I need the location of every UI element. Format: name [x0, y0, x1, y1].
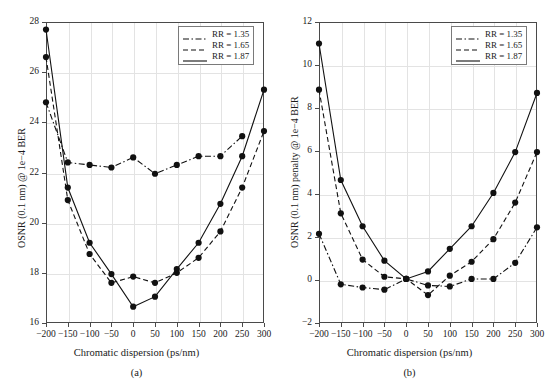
x-axis-label: Chromatic dispersion (ps/nm) — [0, 347, 273, 358]
y-tick-label: −2 — [273, 318, 312, 328]
y-tick-mark — [315, 22, 319, 23]
data-point-marker — [381, 287, 387, 293]
x-tick-mark — [319, 323, 320, 327]
legend-label: RR = 1.87 — [485, 52, 522, 61]
x-axis-label: Chromatic dispersion (ps/nm) — [273, 347, 546, 358]
data-point-marker — [338, 177, 344, 183]
legend-entry: RR = 1.35 — [455, 29, 522, 40]
legend-entry: RR = 1.65 — [182, 40, 249, 51]
data-point-marker — [174, 266, 180, 272]
data-point-marker — [512, 149, 518, 155]
data-point-marker — [534, 149, 540, 155]
data-point-marker — [338, 281, 344, 287]
series-line-dashed — [319, 90, 537, 295]
x-tick-mark — [428, 323, 429, 327]
x-tick-mark — [537, 323, 538, 327]
data-point-marker — [469, 276, 475, 282]
y-tick-mark — [315, 151, 319, 152]
data-point-marker — [174, 162, 180, 168]
data-point-marker — [196, 255, 202, 261]
data-point-marker — [217, 228, 223, 234]
x-tick-mark — [199, 323, 200, 327]
y-tick-label: 16 — [0, 318, 39, 328]
y-tick-mark — [315, 280, 319, 281]
y-tick-mark — [315, 237, 319, 238]
data-point-marker — [316, 87, 322, 93]
data-point-marker — [239, 133, 245, 139]
legend-a: RR = 1.35RR = 1.65RR = 1.87 — [178, 26, 254, 65]
series-line-solid — [319, 44, 537, 279]
legend-entry: RR = 1.65 — [455, 40, 522, 51]
data-point-marker — [65, 184, 71, 190]
data-point-marker — [381, 258, 387, 264]
y-tick-mark — [42, 223, 46, 224]
y-tick-mark — [42, 122, 46, 123]
data-point-marker — [108, 280, 114, 286]
data-point-marker — [425, 292, 431, 298]
data-point-marker — [338, 210, 344, 216]
y-tick-mark — [42, 273, 46, 274]
x-tick-mark — [515, 323, 516, 327]
x-tick-mark — [242, 323, 243, 327]
data-point-marker — [196, 240, 202, 246]
data-point-marker — [43, 26, 49, 32]
data-point-marker — [261, 128, 267, 134]
data-point-marker — [108, 271, 114, 277]
data-point-marker — [360, 284, 366, 290]
y-tick-label: 26 — [0, 67, 39, 77]
data-point-marker — [261, 87, 267, 93]
x-tick-mark — [133, 323, 134, 327]
data-point-marker — [490, 276, 496, 282]
data-point-marker — [108, 164, 114, 170]
x-tick-mark — [155, 323, 156, 327]
x-tick-mark — [493, 323, 494, 327]
legend-label: RR = 1.35 — [212, 30, 249, 39]
data-point-marker — [469, 259, 475, 265]
x-tick-mark — [264, 323, 265, 327]
data-point-marker — [217, 153, 223, 159]
legend-line-swatch-dashed — [455, 41, 481, 51]
data-point-marker — [490, 190, 496, 196]
legend-label: RR = 1.87 — [212, 52, 249, 61]
data-point-marker — [43, 99, 49, 105]
series-line-solid — [46, 30, 264, 307]
data-point-marker — [65, 197, 71, 203]
data-point-marker — [360, 256, 366, 262]
data-point-marker — [447, 283, 453, 289]
data-point-marker — [469, 223, 475, 229]
data-point-marker — [239, 153, 245, 159]
legend-line-swatch-dashdot — [182, 30, 208, 40]
legend-label: RR = 1.65 — [212, 41, 249, 50]
y-tick-label: 10 — [273, 60, 312, 70]
x-tick-mark — [177, 323, 178, 327]
data-point-marker — [447, 273, 453, 279]
data-point-marker — [490, 236, 496, 242]
data-point-marker — [43, 54, 49, 60]
data-point-marker — [87, 251, 93, 257]
x-tick-mark — [90, 323, 91, 327]
x-tick-mark — [450, 323, 451, 327]
series-line-dashdot — [46, 102, 242, 173]
data-point-marker — [87, 240, 93, 246]
y-tick-label: 12 — [273, 17, 312, 27]
legend-entry: RR = 1.35 — [182, 29, 249, 40]
panel-caption-b: (b) — [273, 367, 546, 378]
data-point-marker — [316, 231, 322, 237]
x-tick-mark — [220, 323, 221, 327]
data-point-marker — [196, 153, 202, 159]
data-point-marker — [403, 276, 409, 282]
data-point-marker — [360, 223, 366, 229]
figure-two-panel-chart: 16182022242628−200−150−100−5005010015020… — [0, 0, 546, 391]
data-point-marker — [87, 162, 93, 168]
x-tick-mark — [111, 323, 112, 327]
y-tick-label: 24 — [0, 117, 39, 127]
data-point-marker — [512, 200, 518, 206]
data-point-marker — [381, 274, 387, 280]
y-tick-mark — [42, 72, 46, 73]
legend-label: RR = 1.35 — [485, 30, 522, 39]
x-tick-mark — [472, 323, 473, 327]
legend-line-swatch-dashdot — [455, 30, 481, 40]
data-point-marker — [239, 184, 245, 190]
x-tick-mark — [68, 323, 69, 327]
legend-line-swatch-solid — [182, 52, 208, 62]
